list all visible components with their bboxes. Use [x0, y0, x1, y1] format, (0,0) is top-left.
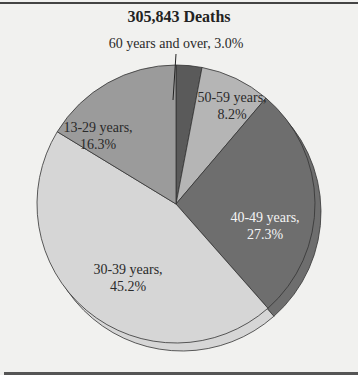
pie-chart: 60 years and over, 3.0%50-59 years,8.2%4… [0, 0, 358, 375]
slice-label-60-years-and-over: 60 years and over, 3.0% [109, 36, 244, 51]
